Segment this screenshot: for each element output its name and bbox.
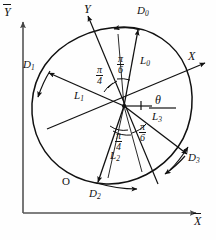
point-label-D1-sub: 1: [31, 63, 35, 72]
global-x-axis-label-text: X: [194, 215, 201, 227]
spoke-L0: [124, 30, 138, 106]
angle-upper-left-num: π: [96, 65, 103, 75]
point-label-D1-letter: D: [23, 58, 31, 70]
global-x-axis-label: X: [194, 215, 201, 227]
global-y-axis-label-text: Y: [4, 6, 11, 18]
point-label-D2: D2: [89, 188, 101, 200]
spoke-label-L1: L1: [74, 90, 84, 102]
rotation-angle-label: θ: [155, 94, 161, 106]
angle-lower-left-num: π: [115, 131, 122, 141]
angle-label-upper-left: π 4: [96, 65, 103, 86]
local-y-axis-label: Y: [84, 3, 91, 15]
spoke-label-L0: L0: [140, 55, 150, 67]
local-y-axis: [88, 16, 158, 184]
diagram-svg: [0, 0, 216, 240]
point-label-D3: D3: [188, 152, 200, 164]
global-y-axis-label: Y: [4, 6, 11, 18]
angle-upper-left-den: 4: [96, 75, 103, 86]
point-label-D1: D1: [23, 59, 35, 71]
point-label-D2-letter: D: [89, 187, 97, 199]
spoke-label-L3: L3: [152, 111, 162, 123]
angle-upper-right-num: π: [117, 54, 124, 64]
figure-caption: [0, 230, 216, 240]
angle-lower-right-den: 6: [139, 132, 146, 143]
tangent-arrow-D3-outer: [170, 147, 188, 170]
angle-label-lower-left: π 4: [115, 131, 122, 152]
spoke-label-L3-sub: 3: [158, 115, 162, 124]
origin-label: O: [62, 176, 70, 187]
spoke-label-L0-sub: 0: [146, 59, 150, 68]
point-label-D0: D0: [137, 5, 149, 17]
point-label-D0-letter: D: [137, 4, 145, 16]
point-label-D3-sub: 3: [196, 156, 200, 165]
angle-label-upper-right: π 6: [117, 54, 124, 75]
figure-canvas: Y X Y X O D0 D1 D2 D3 L0 L1 L2 L3 θ π 4 …: [0, 0, 216, 240]
angle-lower-left-den: 4: [115, 141, 122, 152]
spoke-label-L2-sub: 2: [116, 154, 120, 163]
point-label-D3-letter: D: [188, 151, 196, 163]
angle-upper-right-den: 6: [117, 64, 124, 75]
arc-upper-right: [117, 79, 130, 80]
spoke-L1: [49, 73, 124, 106]
arc-upper-left-2: [108, 81, 117, 88]
point-label-D0-sub: 0: [145, 9, 149, 18]
angle-label-lower-right: π 6: [139, 122, 146, 143]
angle-lower-right-num: π: [139, 122, 146, 132]
point-label-D2-sub: 2: [97, 192, 101, 201]
spoke-label-L1-sub: 1: [80, 94, 84, 103]
local-x-axis-label: X: [188, 50, 195, 62]
